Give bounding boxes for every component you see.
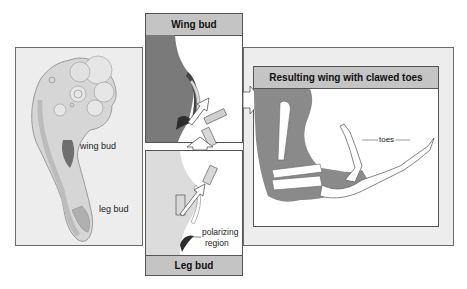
wing-tissue: [146, 35, 194, 142]
leg-polarizing-region: [180, 235, 194, 252]
toe-bones: [320, 138, 434, 198]
toes-label: toes: [379, 135, 394, 144]
bud-graphics: [0, 0, 467, 289]
polarizing-region-label-1: polarizing: [202, 227, 238, 237]
polarizing-region-label-2: region: [205, 238, 229, 248]
